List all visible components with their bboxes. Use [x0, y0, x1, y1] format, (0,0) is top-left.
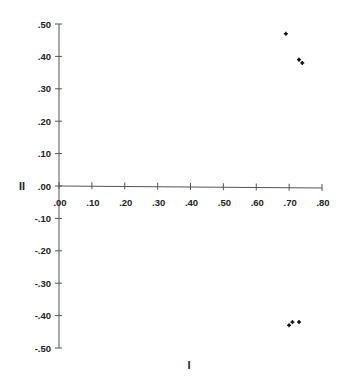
y-tick-label: -.10: [35, 213, 51, 224]
y-tick-label: .10: [38, 148, 51, 159]
x-tick-label: .70: [284, 197, 297, 208]
x-tick-label: .50: [218, 197, 231, 208]
x-tick-label: .40: [185, 197, 198, 208]
x-tick-label: .00: [53, 197, 66, 208]
data-point-star-icon: [297, 320, 301, 324]
y-tick-label: -.50: [35, 343, 51, 354]
y-axis-title: II: [19, 180, 25, 192]
data-points: [284, 32, 304, 328]
x-tick-label: .10: [86, 197, 99, 208]
y-tick-label: -.30: [35, 278, 51, 289]
y-tick-label: .00: [38, 181, 51, 192]
data-point-star-icon: [287, 323, 291, 327]
data-point-star-icon: [284, 32, 288, 36]
scatter-chart: .50.40.30.20.10.00-.10-.20-.30-.40-.50.0…: [0, 0, 344, 390]
x-tick-label: .30: [152, 197, 165, 208]
data-point-star-icon: [300, 61, 304, 65]
data-point-star-icon: [297, 58, 301, 62]
x-axis-title: I: [187, 359, 190, 371]
x-tick-label: .80: [316, 197, 329, 208]
x-tick-label: .60: [251, 197, 264, 208]
data-point-star-icon: [290, 320, 294, 324]
axes: .50.40.30.20.10.00-.10-.20-.30-.40-.50.0…: [35, 19, 330, 354]
y-tick-label: .30: [38, 83, 51, 94]
y-tick-label: .40: [38, 51, 51, 62]
y-tick-label: .20: [38, 116, 51, 127]
x-tick-label: .20: [119, 197, 132, 208]
y-tick-label: -.40: [35, 310, 51, 321]
y-tick-label: -.20: [35, 245, 51, 256]
y-tick-label: .50: [38, 19, 51, 30]
